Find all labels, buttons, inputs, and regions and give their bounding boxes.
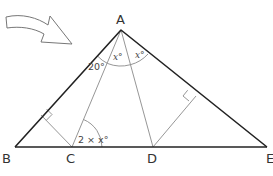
sides-AB-AE (15, 30, 267, 147)
triangle-diagram: A B C D E 20° x° x° 2 × x° (0, 0, 273, 176)
vertex-label-A: A (116, 12, 125, 27)
perpendicular-C-to-AB (41, 115, 72, 147)
vertex-label-B: B (2, 151, 11, 166)
vertex-label-D: D (147, 151, 157, 166)
auxiliary-lines (41, 30, 196, 147)
right-angle-marker-AE (183, 90, 189, 101)
arc-angle-CAD (108, 64, 131, 67)
main-triangle (15, 30, 267, 147)
vertex-label-C: C (66, 151, 75, 166)
angle-label-x-right: x° (135, 50, 145, 60)
angle-label-20: 20° (88, 61, 105, 72)
right-angle-markers (46, 90, 189, 120)
angle-label-2x: 2 × x° (78, 134, 108, 145)
curved-arrow-icon (6, 16, 72, 44)
segment-AD (121, 30, 153, 147)
angle-label-x-left: x° (113, 52, 123, 62)
perpendicular-D-to-AE (153, 96, 196, 147)
vertex-label-E: E (266, 151, 273, 166)
